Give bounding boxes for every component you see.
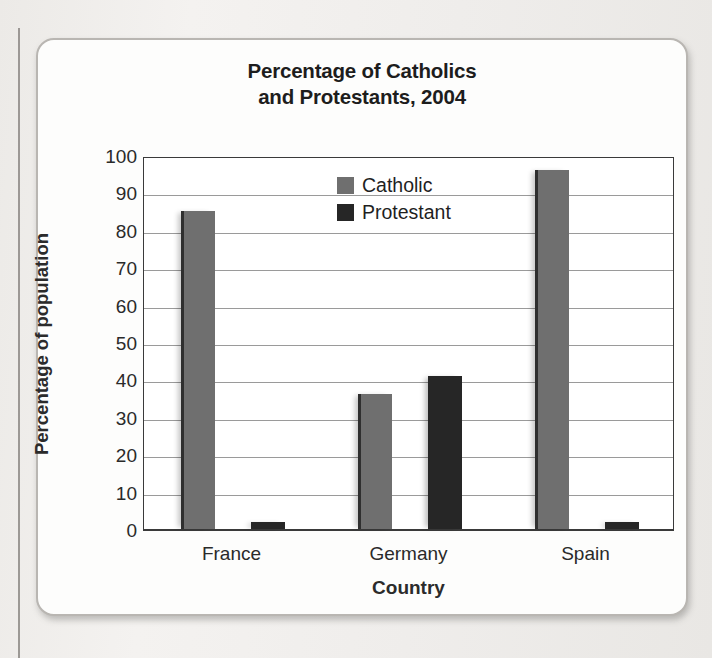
legend-label-catholic: Catholic (362, 176, 432, 196)
bar-france-catholic (181, 211, 215, 529)
y-tick-label: 20 (93, 445, 137, 467)
chart-title: Percentage of Catholics and Protestants,… (38, 58, 686, 110)
plot-wrapper: Percentage of population 100908070605040… (143, 157, 674, 531)
bar-germany-protestant (428, 376, 462, 529)
bar-spain-catholic (535, 170, 569, 529)
y-tick-label: 100 (93, 146, 137, 168)
y-axis-tick-labels: 1009080706050403020100 (91, 157, 137, 531)
y-axis-title: Percentage of population (31, 233, 53, 455)
y-tick-label: 40 (93, 370, 137, 392)
legend-item-protestant: Protestant (337, 199, 451, 226)
x-axis-title: Country (143, 577, 674, 599)
bar-france-protestant (251, 522, 285, 529)
bar-spain-protestant (605, 522, 639, 529)
bar-body (535, 170, 569, 529)
bar-body (251, 522, 285, 529)
legend-label-protestant: Protestant (362, 203, 451, 223)
y-tick-label: 70 (93, 258, 137, 280)
plot-area: Catholic Protestant (143, 157, 674, 531)
y-tick-label: 60 (93, 296, 137, 318)
chart-title-line-2: and Protestants, 2004 (38, 84, 686, 110)
x-tick-label-spain: Spain (561, 543, 610, 565)
legend-item-catholic: Catholic (337, 172, 451, 199)
bar-body (358, 394, 392, 529)
y-tick-label: 80 (93, 221, 137, 243)
y-tick-label: 30 (93, 408, 137, 430)
y-tick-label: 90 (93, 183, 137, 205)
page-left-rule (18, 28, 20, 658)
chart-legend: Catholic Protestant (337, 172, 451, 226)
y-tick-label: 10 (93, 483, 137, 505)
bar-germany-catholic (358, 394, 392, 529)
bar-body (181, 211, 215, 529)
y-tick-label: 0 (93, 520, 137, 542)
bar-body (428, 376, 462, 529)
legend-swatch-protestant-icon (337, 204, 354, 221)
x-tick-label-france: France (202, 543, 261, 565)
y-tick-label: 50 (93, 333, 137, 355)
chart-card: Percentage of Catholics and Protestants,… (36, 38, 688, 616)
chart-title-line-1: Percentage of Catholics (38, 58, 686, 84)
x-tick-label-germany: Germany (369, 543, 447, 565)
bar-body (605, 522, 639, 529)
legend-swatch-catholic-icon (337, 177, 354, 194)
